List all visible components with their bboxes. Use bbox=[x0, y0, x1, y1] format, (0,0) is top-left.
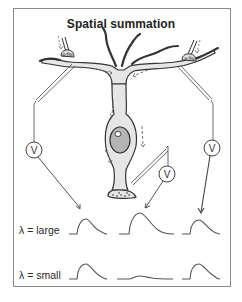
trace-small-soma bbox=[117, 276, 173, 279]
voltmeter-soma-label: V bbox=[164, 169, 171, 180]
dendrite-up-right bbox=[132, 46, 178, 64]
trace-large-left bbox=[69, 219, 107, 234]
trace-small-left bbox=[69, 264, 107, 279]
nucleolus bbox=[115, 132, 121, 137]
voltmeter-soma: V bbox=[145, 166, 175, 208]
traces-small bbox=[69, 264, 220, 279]
voltmeter-left: V bbox=[26, 142, 80, 209]
trace-small-right bbox=[182, 264, 220, 279]
voltmeter-right: V bbox=[198, 140, 220, 213]
electrode-right bbox=[178, 66, 213, 140]
voltmeter-left-label: V bbox=[31, 145, 38, 156]
nucleus bbox=[110, 127, 130, 153]
dendrite-up-left bbox=[103, 28, 116, 66]
neuron-diagram: V V V bbox=[0, 0, 242, 302]
electrode-left bbox=[34, 64, 75, 142]
row-label-lambda-small: λ = small bbox=[19, 269, 61, 281]
trace-large-soma bbox=[119, 213, 174, 234]
row-label-lambda-large: λ = large bbox=[19, 224, 60, 236]
axon-terminal bbox=[108, 190, 136, 198]
trace-large-right bbox=[182, 220, 220, 234]
synapse-left bbox=[58, 36, 74, 57]
traces-large bbox=[69, 213, 220, 234]
voltmeter-right-label: V bbox=[209, 143, 216, 154]
